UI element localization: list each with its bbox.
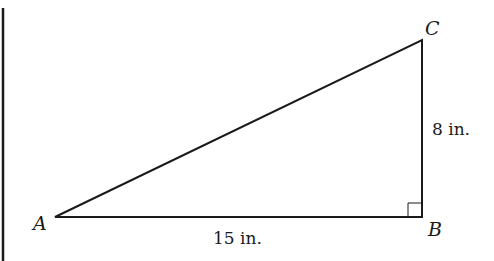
triangle-diagram: A B C 15 in. 8 in. xyxy=(0,0,494,261)
vertex-label-c: C xyxy=(425,17,440,39)
right-angle-marker-icon xyxy=(408,203,422,217)
side-label-ab: 15 in. xyxy=(213,228,262,248)
vertex-label-b: B xyxy=(427,218,442,240)
triangle-abc xyxy=(55,40,422,217)
side-label-bc: 8 in. xyxy=(432,119,470,139)
vertex-label-a: A xyxy=(31,212,47,234)
